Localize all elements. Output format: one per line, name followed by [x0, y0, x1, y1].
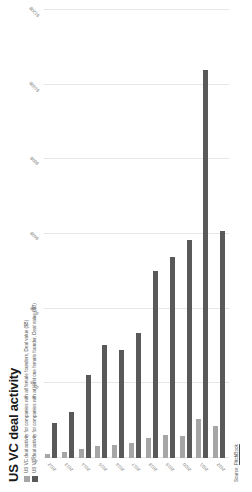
x-axis-tick-label: $120B	[28, 6, 41, 19]
bar-group: 2019	[162, 10, 179, 458]
bar-group: 2012	[44, 10, 61, 458]
source-link[interactable]: PitchBook	[234, 444, 239, 465]
bar-group: 2016	[111, 10, 128, 458]
plot-area: $0B$20B$40B$60B$80B$100B$120B20122013201…	[44, 10, 229, 458]
y-axis-category-label: 2013	[64, 462, 74, 472]
bar-at-least-one-female[interactable]	[136, 333, 141, 458]
legend-label: US VC deal activity for companies with a…	[24, 320, 29, 473]
bar-group: 2015	[94, 10, 111, 458]
bar-group: 2014	[78, 10, 95, 458]
legend-item[interactable]: US VC deal activity for companies with a…	[24, 303, 30, 482]
bar-chart-figure: US VC deal activity US VC deal activity …	[0, 0, 252, 492]
bar-at-least-one-female[interactable]	[69, 412, 74, 458]
bar-group: 2021	[195, 10, 212, 458]
x-axis-tick-label: $60B	[29, 230, 40, 241]
bar-at-least-one-female[interactable]	[86, 376, 91, 459]
bar-at-least-one-female[interactable]	[52, 423, 57, 458]
y-axis-category-label: 2021	[199, 462, 209, 472]
bar-all-female[interactable]	[62, 452, 67, 458]
bar-all-female[interactable]	[146, 438, 151, 458]
bar-all-female[interactable]	[112, 445, 117, 458]
bar-group: 2022	[212, 10, 229, 458]
legend-swatch-at-least-one-female	[32, 476, 38, 482]
chart-canvas: US VC deal activity US VC deal activity …	[0, 0, 252, 492]
bar-all-female[interactable]	[79, 449, 84, 458]
bar-at-least-one-female[interactable]	[170, 257, 175, 458]
bar-at-least-one-female[interactable]	[203, 70, 208, 458]
bar-all-female[interactable]	[180, 436, 185, 458]
source-prefix: Source:	[234, 465, 239, 482]
bar-group: 2017	[128, 10, 145, 458]
bar-all-female[interactable]	[45, 454, 50, 458]
x-axis-tick-label: $80B	[29, 156, 40, 167]
y-axis-category-label: 2012	[47, 462, 57, 472]
bar-at-least-one-female[interactable]	[187, 240, 192, 458]
chart-title: US VC deal activity	[6, 368, 21, 482]
bar-at-least-one-female[interactable]	[153, 271, 158, 458]
y-axis-category-label: 2018	[148, 462, 158, 472]
y-axis-category-label: 2019	[165, 462, 175, 472]
bar-at-least-one-female[interactable]	[220, 231, 225, 458]
bar-group: 2020	[179, 10, 196, 458]
legend-swatch-all-female	[24, 476, 30, 482]
bar-all-female[interactable]	[213, 426, 218, 458]
bar-all-female[interactable]	[95, 446, 100, 458]
y-axis-category-label: 2015	[98, 462, 108, 472]
bar-at-least-one-female[interactable]	[119, 350, 124, 458]
bar-at-least-one-female[interactable]	[102, 345, 107, 458]
x-axis-tick-label: $100B	[28, 80, 41, 93]
y-axis-category-label: 2020	[182, 462, 192, 472]
bar-all-female[interactable]	[129, 443, 134, 458]
bar-all-female[interactable]	[196, 419, 201, 458]
bar-group: 2018	[145, 10, 162, 458]
bar-all-female[interactable]	[163, 435, 168, 458]
source-note: Source: PitchBook	[234, 444, 239, 482]
y-axis-category-label: 2017	[131, 462, 141, 472]
bar-group: 2013	[61, 10, 78, 458]
y-axis-category-label: 2022	[215, 462, 225, 472]
y-axis-category-label: 2014	[81, 462, 91, 472]
y-axis-category-label: 2016	[114, 462, 124, 472]
